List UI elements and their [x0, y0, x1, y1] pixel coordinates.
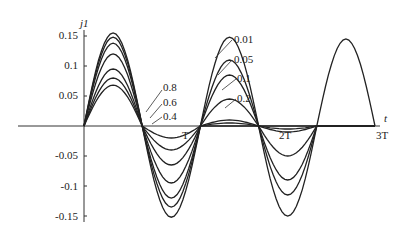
y-tick-label: -0.15: [28, 211, 78, 222]
legend-leader-line: [225, 99, 236, 108]
x-tick-label: 3T: [376, 130, 388, 141]
y-tick-label: 0.15: [28, 30, 78, 41]
legend-leader-line: [222, 79, 236, 90]
series-curve-0.4: [84, 69, 375, 165]
series-curve-0.6: [84, 78, 375, 150]
y-tick-label: -0.1: [28, 181, 78, 192]
legend-leader-line: [152, 117, 162, 124]
legend-label-0.01: 0.01: [234, 34, 253, 45]
x-tick-label: T: [182, 130, 189, 141]
legend-label-0.8: 0.8: [163, 82, 177, 93]
legend-label-0.1: 0.1: [237, 73, 251, 84]
y-tick-label: 0.1: [28, 60, 78, 71]
legend-label-0.4: 0.4: [163, 111, 177, 122]
y-tick-label: 0.05: [28, 90, 78, 101]
legend-label-0.6: 0.6: [163, 97, 177, 108]
y-tick-label: -0.05: [28, 150, 78, 161]
x-axis-label: t: [384, 113, 387, 124]
legend-leader-line: [150, 104, 162, 118]
x-tick-label: 2T: [279, 130, 291, 141]
series-curve-0.2: [84, 54, 375, 183]
y-axis-label: j1: [80, 18, 89, 29]
legend-label-0.2: 0.2: [237, 93, 251, 104]
legend-leader-line: [146, 90, 162, 112]
legend-label-0.05: 0.05: [234, 54, 253, 65]
